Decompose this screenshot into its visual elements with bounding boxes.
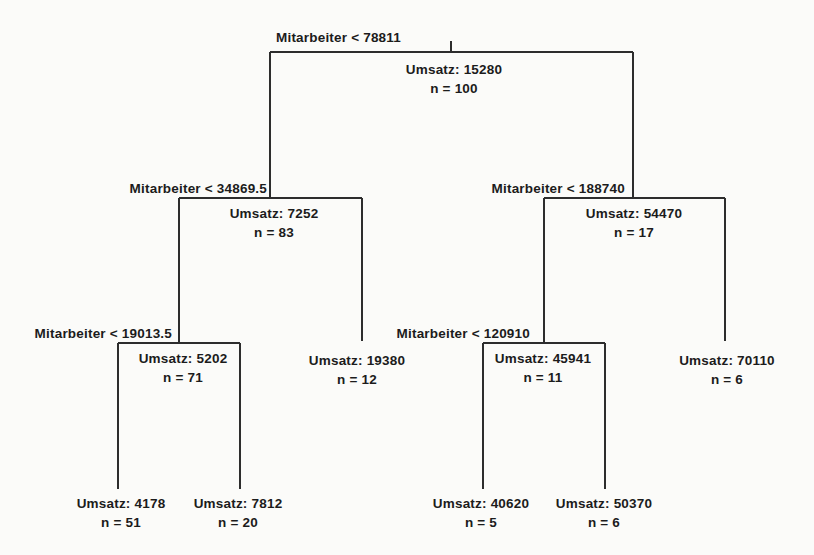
node-value-right-left: Umsatz: 45941 [495, 349, 591, 368]
leaf-stats-right-right: Umsatz: 70110 n = 6 [679, 351, 775, 389]
node-count-left-left: n = 71 [139, 368, 228, 387]
regression-tree-plot: Mitarbeiter < 78811 Mitarbeiter < 34869.… [0, 0, 814, 555]
node-value-root: Umsatz: 15280 [406, 60, 502, 79]
node-count-root: n = 100 [406, 79, 502, 98]
split-label-right: Mitarbeiter < 188740 [492, 180, 625, 197]
leaf-stats-left-right: Umsatz: 19380 n = 12 [309, 351, 405, 389]
split-label-right-left: Mitarbeiter < 120910 [397, 325, 530, 342]
leaf-count-rll: n = 5 [433, 513, 529, 532]
leaf-stats-rlr: Umsatz: 50370 n = 6 [556, 494, 652, 532]
node-stats-right-left: Umsatz: 45941 n = 11 [495, 349, 591, 387]
node-value-left-left: Umsatz: 5202 [139, 349, 228, 368]
node-value-left: Umsatz: 7252 [230, 204, 319, 223]
leaf-stats-rll: Umsatz: 40620 n = 5 [433, 494, 529, 532]
leaf-value-left-right: Umsatz: 19380 [309, 351, 405, 370]
leaf-value-right-right: Umsatz: 70110 [679, 351, 775, 370]
node-count-left: n = 83 [230, 223, 319, 242]
node-count-right: n = 17 [586, 223, 682, 242]
leaf-stats-lll: Umsatz: 4178 n = 51 [77, 494, 166, 532]
node-stats-left-left: Umsatz: 5202 n = 71 [139, 349, 228, 387]
leaf-count-left-right: n = 12 [309, 370, 405, 389]
leaf-count-rlr: n = 6 [556, 513, 652, 532]
split-label-left: Mitarbeiter < 34869.5 [130, 180, 267, 197]
leaf-count-right-right: n = 6 [679, 370, 775, 389]
split-label-left-left: Mitarbeiter < 19013.5 [35, 325, 172, 342]
leaf-count-llr: n = 20 [194, 513, 283, 532]
leaf-value-rll: Umsatz: 40620 [433, 494, 529, 513]
leaf-count-lll: n = 51 [77, 513, 166, 532]
node-value-right: Umsatz: 54470 [586, 204, 682, 223]
split-label-root: Mitarbeiter < 78811 [276, 29, 401, 46]
leaf-value-lll: Umsatz: 4178 [77, 494, 166, 513]
leaf-value-llr: Umsatz: 7812 [194, 494, 283, 513]
node-count-right-left: n = 11 [495, 368, 591, 387]
leaf-stats-llr: Umsatz: 7812 n = 20 [194, 494, 283, 532]
leaf-value-rlr: Umsatz: 50370 [556, 494, 652, 513]
node-stats-left: Umsatz: 7252 n = 83 [230, 204, 319, 242]
node-stats-root: Umsatz: 15280 n = 100 [406, 60, 502, 98]
node-stats-right: Umsatz: 54470 n = 17 [586, 204, 682, 242]
